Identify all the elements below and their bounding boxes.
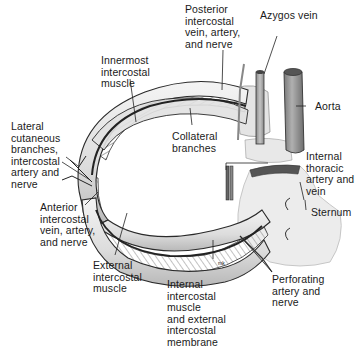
label-perforating-artery-nerve: Perforating artery and nerve	[272, 274, 324, 309]
label-lateral-cutaneous-branches: Lateral cutaneous branches, intercostal …	[11, 121, 60, 191]
label-collateral-branches: Collateral branches	[172, 131, 217, 154]
azygos-vein	[256, 70, 264, 144]
label-sternum: Sternum	[311, 207, 351, 219]
label-external-intercostal-muscle: External intercostal muscle	[93, 260, 142, 295]
label-anterior-intercostal-vessels-nerve: Anterior intercostal vein, artery, and n…	[40, 202, 95, 248]
label-internal-intercostal-muscle: Internal intercostal muscle and external…	[167, 279, 226, 349]
label-aorta: Aorta	[315, 101, 341, 113]
internal-thoracic-vessels	[226, 166, 233, 200]
artist-signature: mk	[218, 260, 225, 266]
aorta	[284, 69, 304, 154]
label-internal-thoracic-artery-vein: Internal thoracic artery and vein	[306, 151, 354, 197]
label-posterior-intercostal-vessels-nerve: Posterior intercostal vein, artery, and …	[185, 4, 240, 50]
label-azygos-vein: Azygos vein	[260, 10, 318, 22]
label-innermost-intercostal-muscle: Innermost intercostal muscle	[101, 55, 150, 90]
intercostal-diagram: Innermost intercostal muscle Posterior i…	[0, 0, 362, 349]
